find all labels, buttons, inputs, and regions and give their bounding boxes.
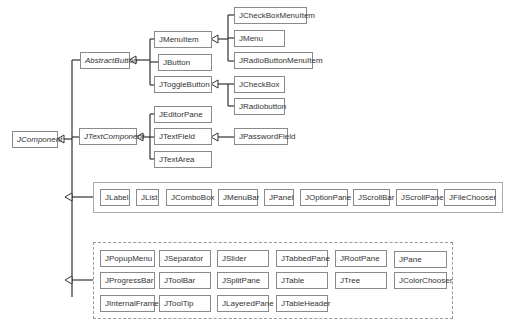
class-jrootpane: JRootPane: [335, 250, 387, 267]
class-jpopupmenu: JPopupMenu: [100, 250, 155, 267]
class-jtextcomponent: JTextComponent: [79, 128, 137, 145]
class-jlist: JList: [136, 189, 159, 206]
class-jprogressbar: JProgressBar: [100, 272, 155, 289]
class-jfilechooser: JFileChooser: [444, 189, 496, 206]
class-jpane: JPane: [394, 251, 447, 268]
class-jtoolbar: JToolBar: [159, 272, 211, 289]
class-joptionpane: JOptionPane: [300, 189, 348, 206]
class-jseparator: JSeparator: [159, 250, 211, 267]
class-jslider: JSlider: [217, 250, 269, 267]
class-jtabbedpane: JTabbedPane: [276, 250, 328, 267]
class-jradiobutton: JRadiobutton: [234, 98, 285, 115]
class-jscrollbar: JScrollBar: [353, 189, 390, 206]
class-jbutton: JButton: [158, 54, 212, 71]
class-jtooltip: JToolTip: [159, 295, 211, 312]
class-jeditorpane: JEditorPane: [154, 106, 212, 123]
class-jtextfield: JTextField: [154, 128, 212, 145]
class-jtable: JTable: [276, 272, 328, 289]
class-jtogglebutton: JToggleButton: [154, 76, 212, 93]
class-jcomponent: JComponent: [12, 131, 58, 148]
class-jpasswordfield: JPasswordField: [234, 128, 288, 145]
class-jtree: JTree: [335, 272, 387, 289]
class-jtableheader: JTableHeader: [276, 295, 328, 312]
class-jmenuitem: JMenuItem: [154, 31, 212, 48]
class-jpanel: JPanel: [264, 189, 294, 206]
class-jcombobox: JComboBox: [166, 189, 212, 206]
class-jcolorchooser: JColorChooser: [394, 272, 447, 289]
class-jmenubar: JMenuBar: [218, 189, 258, 206]
class-jinternalframe: JInternalFrame: [100, 295, 155, 312]
class-jlayeredpane: JLayeredPane: [217, 295, 269, 312]
class-jmenu: JMenu: [234, 30, 285, 47]
class-jsplitpane: JSplitPane: [217, 272, 269, 289]
class-jscrollpane: JScrollPane: [396, 189, 438, 206]
class-jcheckbox: JCheckBox: [234, 76, 285, 93]
class-jtextarea: JTextArea: [154, 151, 212, 168]
class-jlabel: JLabel: [100, 189, 130, 206]
class-jcheckboxmenuitem: JCheckBoxMenuItem: [234, 7, 307, 24]
class-abstractbutton: AbstractButton: [80, 52, 130, 69]
class-jradiobuttonmenuitem: JRadioButtonMenuItem: [234, 52, 313, 69]
